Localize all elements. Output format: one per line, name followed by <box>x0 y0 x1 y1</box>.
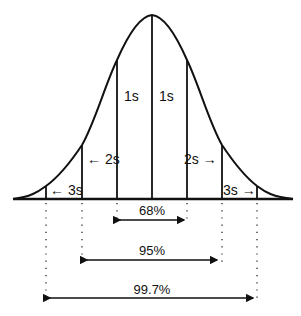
label-right-2s: 2s → <box>184 151 217 167</box>
normal-distribution-diagram: 1s 1s ← 2s 2s → ← 3s 3s → 68% 95% 99.7% <box>0 0 301 316</box>
label-left-3s: ← 3s <box>50 182 83 198</box>
label-68-percent: 68% <box>139 203 165 218</box>
label-997-percent: 99.7% <box>134 282 171 297</box>
label-left-2s: ← 2s <box>87 151 120 167</box>
label-95-percent: 95% <box>139 243 165 258</box>
label-right-1s: 1s <box>159 88 174 104</box>
label-right-3s: 3s → <box>223 182 256 198</box>
label-left-1s: 1s <box>124 88 139 104</box>
bell-curve <box>13 15 293 199</box>
